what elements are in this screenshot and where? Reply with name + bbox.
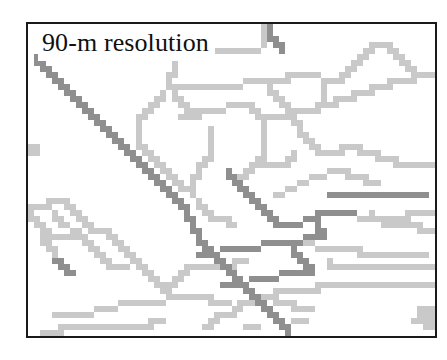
raster-cell-minor	[255, 156, 261, 162]
raster-cell-major	[52, 72, 58, 78]
raster-cell-major	[255, 300, 261, 306]
raster-cell-minor	[148, 324, 154, 330]
raster-cell-major	[279, 222, 285, 228]
raster-cell-minor	[357, 144, 363, 150]
raster-cell-minor	[190, 294, 196, 300]
raster-cell-minor	[399, 78, 405, 84]
raster-cell-minor	[237, 300, 243, 306]
raster-cell-minor	[315, 102, 321, 108]
raster-cell-minor	[315, 282, 321, 288]
raster-cell-minor	[333, 102, 339, 108]
raster-cell-minor	[303, 306, 309, 312]
raster-cell-minor	[214, 216, 220, 222]
raster-cell-minor	[202, 204, 208, 210]
raster-cell-minor	[136, 132, 142, 138]
raster-cell-minor	[291, 288, 297, 294]
raster-cell-minor	[273, 162, 279, 168]
raster-cell-minor	[184, 84, 190, 90]
raster-cell-minor	[232, 258, 238, 264]
raster-cell-major	[303, 258, 309, 264]
raster-cell-minor	[381, 216, 387, 222]
raster-cell-major	[315, 234, 321, 240]
raster-cell-minor	[64, 324, 70, 330]
raster-cell-minor	[405, 210, 411, 216]
raster-cell-minor	[100, 324, 106, 330]
raster-cell-major	[58, 264, 64, 270]
raster-cell-minor	[243, 78, 249, 84]
raster-cell-minor	[94, 324, 100, 330]
raster-cell-minor	[345, 96, 351, 102]
raster-cell-minor	[136, 258, 142, 264]
raster-cell-minor	[363, 174, 369, 180]
raster-cell-minor	[130, 252, 136, 258]
raster-cell-major	[64, 264, 70, 270]
raster-cell-minor	[76, 210, 82, 216]
raster-cell-minor	[226, 48, 232, 54]
raster-cell-minor	[249, 324, 255, 330]
raster-cell-minor	[303, 72, 309, 78]
raster-cell-minor	[399, 216, 405, 222]
raster-cell-major	[178, 204, 184, 210]
raster-cell-minor	[214, 264, 220, 270]
raster-cell-major	[94, 114, 100, 120]
raster-cell-minor	[429, 210, 435, 216]
raster-cell-major	[76, 96, 82, 102]
raster-cell-minor	[142, 144, 148, 150]
raster-cell-minor	[285, 288, 291, 294]
raster-cell-minor	[40, 330, 46, 336]
raster-cell-minor	[411, 72, 417, 78]
raster-cell-minor	[178, 180, 184, 186]
raster-cell-minor	[375, 180, 381, 186]
raster-cell-major	[309, 234, 315, 240]
raster-cell-minor	[40, 240, 46, 246]
raster-cell-major	[196, 252, 202, 258]
raster-cell-minor	[52, 330, 58, 336]
raster-cell-major	[261, 204, 267, 210]
raster-cell-minor	[417, 210, 423, 216]
raster-cell-minor	[381, 264, 387, 270]
raster-cell-minor	[196, 264, 202, 270]
raster-cell-major	[261, 276, 267, 282]
raster-cell-minor	[142, 324, 148, 330]
raster-cell-minor	[154, 102, 160, 108]
raster-cell-major	[297, 270, 303, 276]
raster-cell-minor	[387, 222, 393, 228]
raster-cell-minor	[303, 288, 309, 294]
raster-cell-major	[190, 216, 196, 222]
raster-cell-minor	[297, 120, 303, 126]
raster-cell-minor	[429, 318, 435, 324]
raster-cell-minor	[148, 300, 154, 306]
raster-cell-minor	[166, 78, 172, 84]
raster-cell-minor	[232, 84, 238, 90]
raster-cell-minor	[237, 306, 243, 312]
raster-cell-minor	[208, 318, 214, 324]
raster-cell-minor	[327, 150, 333, 156]
raster-cell-minor	[82, 324, 88, 330]
raster-cell-minor	[285, 300, 291, 306]
raster-cell-major	[172, 198, 178, 204]
raster-cell-minor	[303, 108, 309, 114]
raster-cell-major	[315, 222, 321, 228]
raster-cell-major	[273, 42, 279, 48]
raster-cell-minor	[190, 108, 196, 114]
raster-cell-minor	[232, 102, 238, 108]
raster-cell-major	[321, 228, 327, 234]
raster-cell-major	[160, 180, 166, 186]
raster-cell-minor	[261, 138, 267, 144]
raster-cell-minor	[375, 216, 381, 222]
raster-cell-minor	[166, 174, 172, 180]
raster-cell-minor	[184, 186, 190, 192]
raster-cell-minor	[160, 90, 166, 96]
raster-cell-major	[285, 324, 291, 330]
raster-cell-major	[321, 234, 327, 240]
raster-cell-major	[279, 48, 285, 54]
figure-root: 90-m resolution	[0, 0, 447, 360]
raster-cell-minor	[46, 330, 52, 336]
raster-cell-minor	[58, 216, 64, 222]
raster-cell-major	[112, 138, 118, 144]
raster-cell-minor	[34, 204, 40, 210]
raster-cell-major	[243, 246, 249, 252]
raster-cell-minor	[28, 144, 34, 150]
raster-cell-minor	[423, 306, 429, 312]
raster-cell-major	[202, 252, 208, 258]
